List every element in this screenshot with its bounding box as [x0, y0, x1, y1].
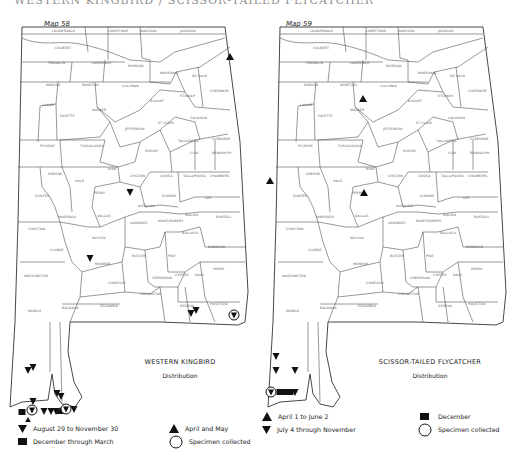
county-label: MORGAN: [386, 64, 402, 68]
county-label: CRENSHAW: [152, 276, 173, 280]
county-label: CALHOUN: [190, 116, 208, 120]
county-label: COOSA: [418, 174, 431, 178]
county-label: BULLOCK: [440, 231, 457, 235]
county-label: CONECUH: [108, 281, 126, 285]
circle-icon: [169, 435, 183, 449]
county-label: WALKER: [92, 108, 107, 112]
county-label: RANDOLPH: [212, 151, 232, 155]
county-label: GENEVA: [438, 304, 453, 308]
county-label: CULLMAN: [122, 84, 139, 88]
legend-label: April and May: [185, 425, 228, 432]
county-label: FAYETTE: [318, 114, 333, 118]
legend-item: December through March: [18, 436, 118, 447]
county-label: TALLADEGA: [435, 139, 457, 143]
county-label: CLAY: [190, 151, 199, 155]
county-label: HALE: [75, 179, 84, 183]
county-label: WINSTON: [340, 83, 357, 87]
county-label: GREENE: [48, 172, 62, 176]
county-label: MADISON: [398, 29, 415, 33]
county-label: CLAY: [448, 151, 457, 155]
county-label: SHELBY: [145, 149, 158, 153]
county-label: BLOUNT: [150, 99, 164, 103]
county-label: MACON: [185, 213, 198, 217]
county-label: MARSHALL: [418, 71, 437, 75]
county-label: CULLMAN: [380, 84, 397, 88]
county-label: PICKENS: [298, 144, 313, 148]
species-subtitle: Distribution: [350, 372, 510, 379]
species-caption: SCISSOR-TAILED FLYCATCHER Distribution: [350, 358, 510, 379]
county-label: MONTGOMERY: [416, 219, 441, 223]
county-label: HALE: [333, 179, 342, 183]
county-label: WILCOX: [92, 236, 106, 240]
circle-icon: [418, 423, 432, 437]
county-label: LEE: [205, 196, 211, 200]
county-label: COLBERT: [55, 46, 71, 50]
county-label: ETOWAH: [438, 94, 454, 98]
county-label: BLOUNT: [408, 99, 422, 103]
county-label: CHAMBERS: [210, 174, 230, 178]
legend-map-58-col2: April and May Specimen collected: [169, 423, 251, 449]
county-label: TUSCALOOSA: [337, 144, 362, 148]
county-label: ESCAMBIA: [358, 304, 377, 308]
county-label: MARION: [46, 83, 61, 87]
county-label: JEFFERSON: [124, 127, 145, 131]
legend-map-59-col1: April 1 to June 2 July 4 through Novembe…: [262, 411, 356, 437]
county-label: TALLAPOOSA: [440, 174, 465, 178]
county-label: MARSHALL: [160, 71, 179, 75]
county-label: GENEVA: [180, 304, 195, 308]
county-label: LEE: [463, 196, 469, 200]
legend-item: July 4 through November: [262, 424, 356, 435]
specimen-circle-icon: [266, 387, 276, 397]
county-label: CONECUH: [366, 281, 384, 285]
legend-item: Specimen collected: [418, 424, 500, 435]
county-label: CHILTON: [130, 174, 146, 178]
county-label: DALE: [195, 273, 204, 277]
county-label: COOSA: [160, 174, 173, 178]
county-label: MACON: [443, 213, 456, 217]
legend-item: April 1 to June 2: [262, 411, 356, 422]
county-label: ELMORE: [420, 194, 434, 198]
county-label: FAYETTE: [60, 114, 75, 118]
county-label: MONROE: [353, 262, 369, 266]
county-label: COFFEE: [175, 273, 189, 277]
county-label: RUSSELL: [216, 215, 232, 219]
county-label: CLARKE: [308, 248, 322, 252]
county-label: CLEBURNE: [212, 137, 231, 141]
legend-item: April and May: [169, 423, 251, 434]
square-icon: [18, 437, 27, 446]
county-label: MARENGO: [58, 215, 76, 219]
county-label: AUTAUGA: [396, 204, 413, 208]
county-label: LAWRENCE: [350, 61, 369, 65]
specimen-circle-icon: [61, 404, 71, 414]
species-name: SCISSOR-TAILED FLYCATCHER: [350, 358, 510, 366]
county-label: CLARKE: [50, 248, 64, 252]
county-label: MARION: [304, 83, 319, 87]
species-name: WESTERN KINGBIRD: [110, 358, 250, 366]
county-label: MOBILE: [28, 309, 41, 313]
county-label: LAMAR: [42, 103, 55, 107]
county-label: PERRY: [94, 191, 105, 195]
county-label: WASHINGTON: [24, 274, 49, 278]
county-label: MOBILE: [286, 309, 299, 313]
county-label: WINSTON: [82, 83, 99, 87]
triangle-up-icon: [266, 177, 274, 184]
county-label: DALLAS: [355, 214, 369, 218]
legend-item: December: [418, 411, 500, 422]
county-label: LIMESTONE: [366, 29, 386, 33]
legend-label: Specimen collected: [438, 426, 500, 433]
legend-label: July 4 through November: [277, 426, 356, 433]
square-icon: [418, 412, 432, 422]
species-subtitle: Distribution: [110, 372, 250, 379]
legend-item: August 29 to November 30: [18, 423, 118, 434]
county-label: BIBB: [108, 167, 116, 171]
county-label: DE KALB: [450, 74, 465, 78]
county-label: LOWNDES: [130, 221, 148, 225]
county-label: PICKENS: [40, 144, 55, 148]
county-label: CHILTON: [388, 174, 404, 178]
triangle-down-icon: [18, 424, 27, 433]
legend-label: August 29 to November 30: [33, 425, 118, 432]
county-label: FRANKLIN: [48, 61, 66, 65]
county-label: WILCOX: [350, 236, 364, 240]
county-label: BULLOCK: [182, 231, 199, 235]
county-label: PIKE: [426, 254, 434, 258]
